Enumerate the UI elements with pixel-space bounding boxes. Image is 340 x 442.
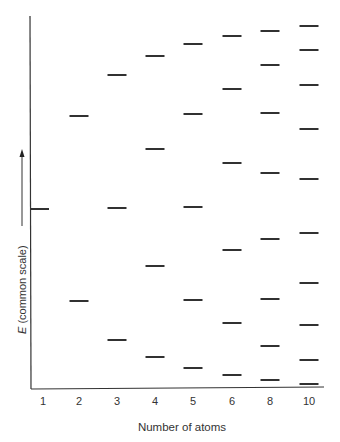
x-tick-label-5: 5 — [190, 395, 196, 407]
energy-levels — [31, 26, 319, 384]
x-axis-title: Number of atoms — [138, 421, 226, 433]
x-tick-label-4: 4 — [152, 395, 158, 407]
energy-level-diagram: 123456810 Number of atoms E (common scal… — [0, 0, 340, 442]
up-arrow-icon — [20, 149, 25, 157]
y-axis-label-text: (common scale) — [16, 245, 28, 326]
y-axis — [30, 16, 31, 389]
x-tick-labels: 123456810 — [40, 395, 315, 407]
x-tick-label-1: 1 — [40, 395, 46, 407]
x-tick-label-3: 3 — [114, 395, 120, 407]
x-tick-label-10: 10 — [303, 395, 315, 407]
x-tick-label-6: 6 — [229, 395, 235, 407]
x-tick-label-2: 2 — [76, 395, 82, 407]
svg-text:E (common scale): E (common scale) — [16, 245, 28, 334]
x-axis — [31, 387, 324, 389]
x-tick-label-8: 8 — [267, 395, 273, 407]
y-axis-label: E (common scale) — [16, 245, 28, 334]
